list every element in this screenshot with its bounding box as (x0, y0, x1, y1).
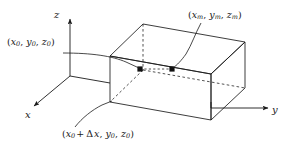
x-axis-label: x (25, 110, 31, 120)
leader-origin-point (63, 53, 139, 68)
delta-point-label-z-sub: 0 (126, 132, 130, 140)
delta-point-label: (x0+Δx, y0, z0) (62, 129, 134, 139)
box-hidden-left-depth-edge (110, 70, 143, 102)
origin-point-label-y-sub: 0 (32, 40, 36, 48)
origin-point-label-comma1: , (20, 36, 23, 47)
box-hidden-bottom-depth-edge (143, 70, 245, 88)
figure-container: (x0, y0, z0) (xm, ym, zm) (x0+Δx, y0, z0… (0, 0, 289, 150)
mid-point-label-x-sub: m (197, 13, 203, 21)
control-volume-box (110, 24, 245, 120)
origin-point-label-comma2: , (36, 36, 39, 47)
z-axis-label: z (54, 10, 59, 20)
leader-line-group (63, 23, 201, 127)
mid-point-label-comma2: , (221, 9, 224, 20)
origin-point-label-close: ) (51, 36, 55, 47)
delta-symbol: Δ (85, 128, 94, 139)
mid-point-label-close: ) (238, 9, 242, 20)
diagram-canvas (0, 0, 289, 150)
delta-point-label-close: ) (130, 128, 134, 139)
delta-point-label-y-sub: 0 (111, 132, 115, 140)
origin-point-label-z-sub: 0 (47, 40, 51, 48)
y-axis-label: y (272, 105, 278, 115)
delta-point-label-operator: + (75, 128, 85, 139)
delta-point-label-x-sub: 0 (71, 132, 75, 140)
mid-point-label-z-sub: m (232, 13, 238, 21)
box-front-face (110, 56, 211, 120)
y-axis-front-segment (70, 76, 110, 83)
mid-point-label: (xm, ym, zm) (188, 10, 242, 20)
origin-corner-point-marker (137, 66, 142, 71)
mid-point-label-y-sub: m (215, 13, 221, 21)
delta-point-label-comma2: , (115, 128, 118, 139)
x-axis (34, 76, 70, 106)
origin-point-label: (x0, y0, z0) (7, 37, 55, 47)
mid-point-label-y: y (209, 9, 214, 20)
mid-point-label-comma1: , (203, 9, 206, 20)
box-top-face (110, 24, 245, 74)
leader-delta-point (75, 101, 112, 127)
delta-point-label-comma1: , (99, 128, 102, 139)
origin-point-label-x-sub: 0 (16, 40, 20, 48)
origin-point-label-y: y (26, 36, 31, 47)
